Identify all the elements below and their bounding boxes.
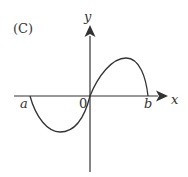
point-a-label: a (20, 96, 28, 111)
origin-label: 0 (79, 96, 87, 111)
point-b-label: b (144, 96, 152, 111)
graph-figure: (C) y x 0 a b (0, 0, 188, 177)
y-axis-label: y (83, 9, 92, 24)
y-axis-arrow-icon (85, 25, 96, 37)
function-curve (30, 58, 148, 132)
x-axis-label: x (171, 92, 179, 107)
figure-label: (C) (13, 21, 33, 36)
